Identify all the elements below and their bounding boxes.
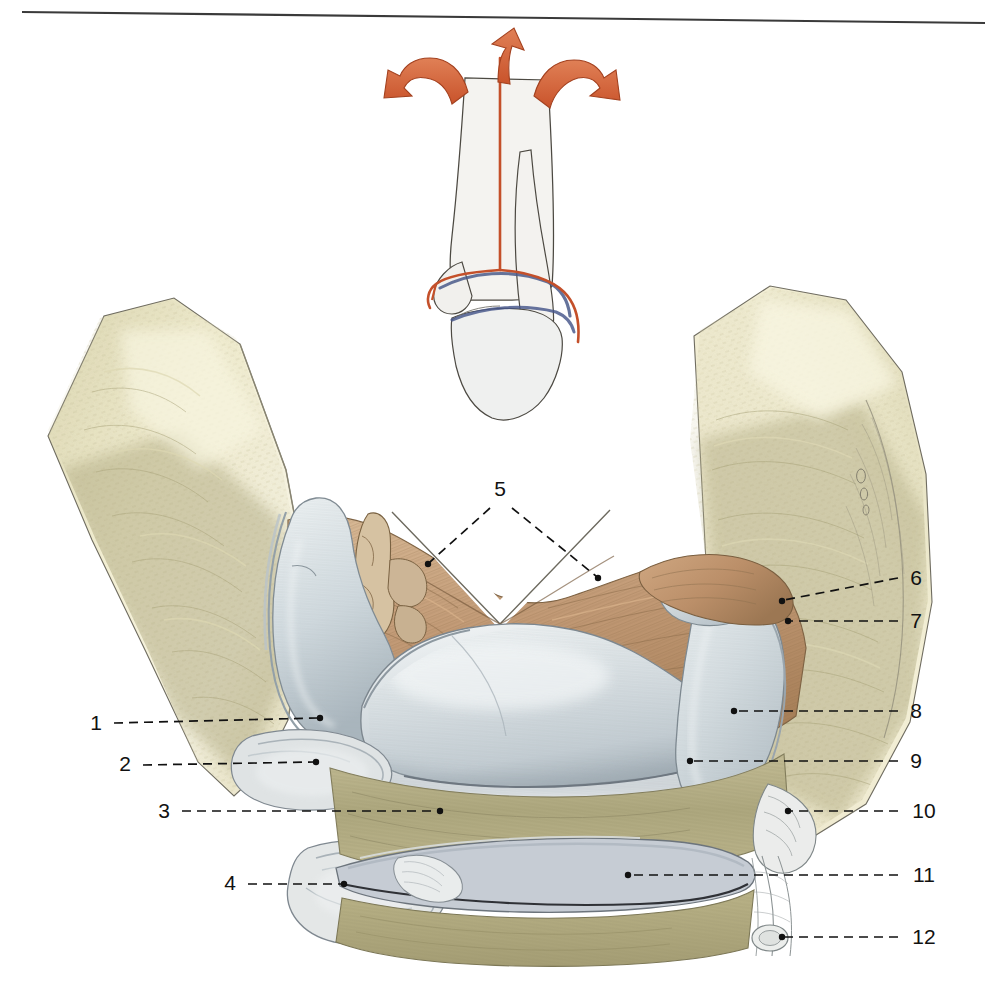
- label-9-dot: [687, 758, 693, 764]
- label-4-number: 4: [224, 871, 236, 894]
- label-4-dot: [341, 881, 347, 887]
- anatomical-plate: 1 2 3 4 5: [0, 0, 992, 1003]
- label-3-number: 3: [158, 799, 170, 822]
- label-6-number: 6: [910, 566, 922, 589]
- label-2-number: 2: [119, 752, 131, 775]
- label-12-dot: [779, 934, 785, 940]
- label-7-number: 7: [910, 609, 922, 632]
- plate-canvas: 1 2 3 4 5: [0, 0, 992, 1003]
- label-1-number: 1: [90, 711, 102, 734]
- label-5-dot-right: [595, 575, 601, 581]
- label-6-dot: [779, 598, 785, 604]
- label-3-dot: [437, 808, 443, 814]
- label-12-number: 12: [912, 925, 935, 948]
- label-7-dot: [785, 618, 791, 624]
- label-5-number: 5: [494, 477, 506, 500]
- label-11-dot: [625, 872, 631, 878]
- label-9-number: 9: [910, 749, 922, 772]
- label-2-dot: [313, 759, 319, 765]
- label-11-number: 11: [913, 863, 935, 886]
- label-5-dot-left: [425, 561, 431, 567]
- label-10-dot: [785, 808, 791, 814]
- label-1-dot: [317, 715, 323, 721]
- label-8-dot: [731, 708, 737, 714]
- label-10-number: 10: [912, 799, 935, 822]
- label-8-number: 8: [910, 699, 922, 722]
